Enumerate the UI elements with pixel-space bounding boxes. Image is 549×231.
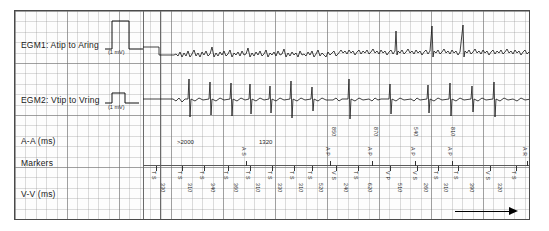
vv-value: 310 bbox=[187, 183, 193, 193]
vv-value: 510 bbox=[397, 183, 403, 193]
vv-value: 330 bbox=[160, 183, 166, 193]
aa-value: 1320 bbox=[259, 139, 272, 145]
marker-ventricular: V S bbox=[331, 171, 337, 180]
marker-atrial: A P bbox=[325, 147, 331, 156]
marker-atrial: A R bbox=[522, 147, 528, 156]
marker-ventricular: T S bbox=[307, 171, 313, 180]
vv-value: 310 bbox=[255, 183, 261, 193]
vv-value: 340 bbox=[210, 183, 216, 193]
marker-atrial: A P bbox=[367, 147, 373, 156]
marker-tick bbox=[246, 161, 247, 166]
marker-ventricular: T S bbox=[453, 171, 459, 180]
aa-value: 810 bbox=[450, 127, 456, 137]
marker-ventricular: T S bbox=[199, 171, 205, 180]
marker-atrial: A S bbox=[241, 147, 247, 156]
vv-value: 260 bbox=[423, 183, 429, 193]
vv-value: 330 bbox=[277, 183, 283, 193]
aa-value: 850 bbox=[331, 127, 337, 137]
vv-value: 360 bbox=[233, 183, 239, 193]
marker-tick bbox=[452, 161, 453, 166]
marker-ventricular: T S bbox=[245, 171, 251, 180]
vv-value: 240 bbox=[343, 183, 349, 193]
marker-ventricular: V S bbox=[412, 171, 418, 180]
vv-value: 520 bbox=[318, 183, 324, 193]
aa-value: 870 bbox=[373, 127, 379, 137]
marker-ventricular: T S bbox=[289, 171, 295, 180]
marker-ventricular: T S bbox=[223, 171, 229, 180]
time-arrow-line bbox=[455, 211, 511, 212]
marker-atrial: A P bbox=[447, 147, 453, 156]
marker-ventricular: T S bbox=[433, 171, 439, 180]
marker-ventricular: T S bbox=[353, 171, 359, 180]
vv-value: 320 bbox=[497, 183, 503, 193]
vv-value: 310 bbox=[443, 183, 449, 193]
marker-atrial: A P bbox=[410, 147, 416, 156]
vv-value: 620 bbox=[367, 183, 373, 193]
egm-strip-screenshot: EGM1: Atip to Aring (1 mV) EGM2: Vtip to… bbox=[0, 0, 549, 231]
marker-ventricular: T S bbox=[511, 171, 517, 180]
marker-tick bbox=[372, 161, 373, 166]
marker-ventricular: V P bbox=[385, 171, 391, 180]
chart-frame: EGM1: Atip to Aring (1 mV) EGM2: Vtip to… bbox=[14, 10, 530, 220]
marker-tick bbox=[527, 161, 528, 166]
time-arrow-head bbox=[509, 207, 518, 215]
marker-ventricular: T S bbox=[177, 171, 183, 180]
annotation-layer: >20001320850870540810A SA PA PA PA PA RT… bbox=[15, 11, 529, 219]
marker-ventricular: V S bbox=[485, 171, 491, 180]
marker-ventricular: T S bbox=[267, 171, 273, 180]
marker-ventricular: T S bbox=[151, 171, 157, 180]
vv-value: 310 bbox=[298, 183, 304, 193]
aa-value: 540 bbox=[413, 127, 419, 137]
marker-tick bbox=[330, 161, 331, 166]
aa-value: >2000 bbox=[177, 139, 194, 145]
marker-tick bbox=[415, 161, 416, 166]
vv-value: 390 bbox=[469, 183, 475, 193]
